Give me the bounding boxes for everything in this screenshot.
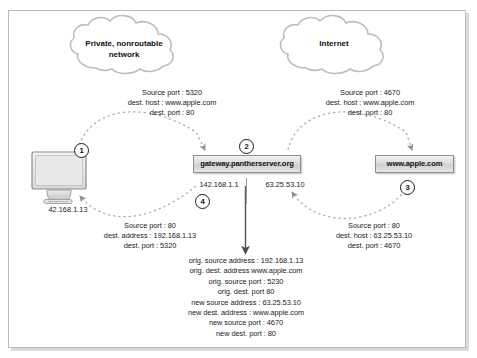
translation-line: new dest. port : 80 (166, 329, 326, 339)
translation-line: orig. source port : 5230 (166, 277, 326, 287)
packet-line: Source port : 5320 (84, 88, 260, 98)
packet-line: Source port : 4670 (282, 88, 458, 98)
translation-line: orig. dest. port 80 (166, 287, 326, 297)
private-network-cloud-label: Private, nonroutable network (78, 38, 170, 60)
callout-4-value: 4 (200, 198, 204, 206)
packet-line: dest. port : 5320 (82, 241, 218, 251)
gateway-node-box[interactable]: gateway.pantherserver.org (193, 155, 301, 173)
packet-line: dest. host : 63.25.53.10 (306, 231, 442, 241)
callout-1-value: 1 (79, 147, 83, 155)
packet-line: dest. address : 192.168.1.13 (82, 231, 218, 241)
translation-line: new source port : 4670 (166, 318, 326, 328)
packet-outbound-private-text: Source port : 5320 dest. host : www.appl… (84, 88, 260, 119)
packet-line: dest. port : 80 (282, 108, 458, 118)
packet-inbound-public-text: Source port : 80 dest. host : 63.25.53.1… (306, 221, 442, 252)
client-ip-label: 42.168.1.13 (28, 205, 108, 214)
nat-diagram: Private, nonroutable network Internet So… (0, 0, 477, 358)
gateway-inside-ip-value: 142.168.1.1 (199, 180, 238, 189)
packet-inbound-private-text: Source port : 80 dest. address : 192.168… (82, 221, 218, 252)
packet-line: dest. port : 80 (84, 108, 260, 118)
translation-line: orig. dest. address www.apple.com (166, 266, 326, 276)
packet-line: Source port : 80 (306, 221, 442, 231)
packet-line: Source port : 80 (82, 221, 218, 231)
server-node-box[interactable]: www.apple.com (375, 155, 454, 173)
client-ip-value: 42.168.1.13 (48, 205, 87, 214)
internet-cloud-label-line1: Internet (288, 38, 380, 49)
translation-line: orig. source address : 192.168.1.13 (166, 256, 326, 266)
nat-translation-table-text: orig. source address : 192.168.1.13 orig… (166, 256, 326, 339)
private-cloud-label-line2: network (78, 49, 170, 60)
packet-line: dest. port : 4670 (306, 241, 442, 251)
callout-marker-1: 1 (74, 143, 89, 158)
translation-line: new source address : 63.25.53.10 (166, 298, 326, 308)
callout-marker-4: 4 (195, 194, 210, 209)
gateway-inside-ip-label: 142.168.1.1 (186, 180, 252, 189)
gateway-node-label: gateway.pantherserver.org (200, 160, 294, 168)
callout-3-value: 3 (405, 184, 409, 192)
translation-line: new dest. address : www.apple.com (166, 308, 326, 318)
callout-marker-3: 3 (400, 180, 415, 195)
callout-marker-2: 2 (239, 139, 254, 154)
gateway-outside-ip-label: 63.25.53.10 (252, 180, 318, 189)
gateway-outside-ip-value: 63.25.53.10 (265, 180, 304, 189)
packet-line: dest. host : www.apple.com (84, 98, 260, 108)
packet-outbound-public-text: Source port : 4670 dest. host : www.appl… (282, 88, 458, 119)
callout-2-value: 2 (244, 143, 248, 151)
packet-line: dest. host : www.apple.com (282, 98, 458, 108)
private-cloud-label-line1: Private, nonroutable (78, 38, 170, 49)
server-node-label: www.apple.com (387, 160, 443, 168)
internet-cloud-label: Internet (288, 38, 380, 49)
